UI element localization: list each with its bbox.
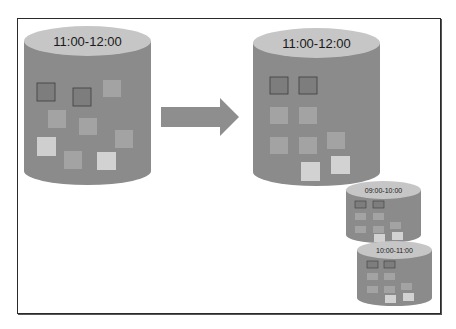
result-cylinder-main: 11:00-12:00 [253, 28, 380, 186]
result-cylinder-1000-label: 10:00-11:00 [376, 247, 413, 254]
source-cylinder: 11:00-12:00 [24, 26, 151, 185]
result-cylinder-0900-label: 09:00-10:00 [365, 187, 402, 194]
result-cylinder-0900: 09:00-10:00 [346, 181, 421, 243]
result-cylinder-main-label: 11:00-12:00 [282, 36, 350, 51]
result-cylinder-1000: 10:00-11:00 [357, 241, 432, 306]
right-arrow-icon [161, 98, 239, 136]
diagram-canvas: 11:00-12:00 11:00-12:00 [0, 0, 456, 329]
source-cylinder-label: 11:00-12:00 [53, 34, 121, 49]
